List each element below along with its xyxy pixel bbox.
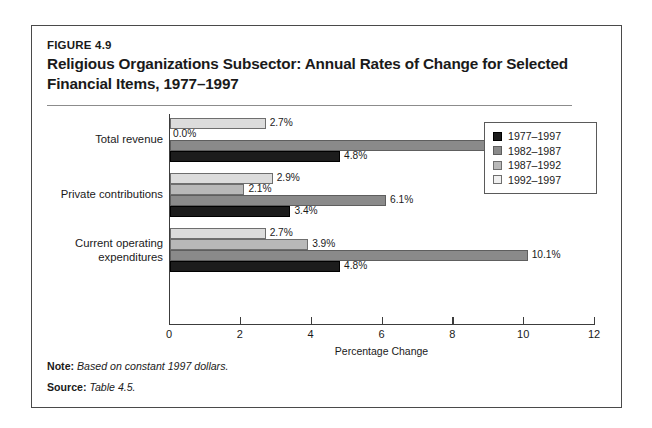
figure-container: FIGURE 4.9 Religious Organizations Subse…: [31, 25, 622, 408]
x-tick-mark: [240, 317, 241, 325]
header-divider: [47, 105, 572, 106]
legend-item[interactable]: 1987–1992: [493, 159, 590, 172]
category-label: Total revenue: [0, 133, 163, 147]
bar-row: 4.8%: [170, 261, 600, 272]
legend-item[interactable]: 1982–1987: [493, 144, 590, 157]
source-line: Source: Table 4.5.: [47, 380, 587, 394]
bar[interactable]: [170, 228, 266, 239]
bar-value-label: 3.9%: [312, 238, 335, 250]
bar[interactable]: [170, 239, 308, 250]
bar-row: 6.1%: [170, 195, 600, 206]
bar[interactable]: [170, 195, 386, 206]
legend-swatch-icon: [493, 161, 502, 170]
bar-group: Current operating expenditures2.7%3.9%10…: [32, 228, 623, 272]
x-tick-mark: [452, 317, 453, 325]
bar-value-label: 0.0%: [173, 128, 196, 140]
bar-value-label: 2.1%: [248, 183, 271, 195]
x-tick-mark: [594, 317, 595, 325]
figure-title: Religious Organizations Subsector: Annua…: [47, 54, 592, 93]
x-tick-label: 10: [508, 328, 538, 340]
figure-number: FIGURE 4.9: [47, 38, 592, 52]
legend-swatch-icon: [493, 175, 502, 184]
x-tick-mark: [382, 317, 383, 325]
legend-label: 1992–1997: [508, 174, 561, 186]
bar-value-label: 2.7%: [270, 117, 293, 129]
x-tick-label: 6: [367, 328, 397, 340]
chart-legend: 1977–19971982–19871987–19921992–1997: [484, 122, 597, 194]
x-tick-label: 8: [437, 328, 467, 340]
bar[interactable]: [170, 261, 340, 272]
legend-item[interactable]: 1977–1997: [493, 130, 590, 143]
legend-swatch-icon: [493, 132, 502, 141]
legend-item[interactable]: 1992–1997: [493, 173, 590, 186]
x-tick-label: 12: [579, 328, 609, 340]
legend-label: 1982–1987: [508, 145, 561, 157]
bar-value-label: 4.8%: [344, 150, 367, 162]
x-tick-mark: [523, 317, 524, 325]
bar-value-label: 3.4%: [294, 205, 317, 217]
bar-value-label: 2.9%: [277, 172, 300, 184]
bar-row: 10.1%: [170, 250, 600, 261]
x-tick-label: 2: [225, 328, 255, 340]
bar-row: 2.7%: [170, 228, 600, 239]
bar-value-label: 10.1%: [532, 249, 561, 261]
figure-header: FIGURE 4.9 Religious Organizations Subse…: [47, 38, 592, 93]
bar[interactable]: [170, 206, 290, 217]
bar-row: 3.4%: [170, 206, 600, 217]
note-line: Note: Based on constant 1997 dollars.: [47, 359, 587, 373]
bar-value-label: 4.8%: [344, 260, 367, 272]
category-label: Current operating expenditures: [43, 237, 163, 264]
x-axis-title: Percentage Change: [169, 345, 594, 357]
category-label: Private contributions: [0, 188, 163, 202]
x-tick-label: 0: [154, 328, 184, 340]
source-text: Table 4.5.: [89, 381, 135, 393]
bar-value-label: 6.1%: [390, 194, 413, 206]
x-tick-mark: [169, 317, 170, 325]
bar-value-label: 2.7%: [270, 227, 293, 239]
source-label: Source:: [47, 381, 86, 393]
note-text: Based on constant 1997 dollars.: [77, 360, 228, 372]
legend-label: 1977–1997: [508, 130, 561, 142]
legend-swatch-icon: [493, 146, 502, 155]
note-label: Note:: [47, 360, 74, 372]
x-tick-mark: [311, 317, 312, 325]
legend-label: 1987–1992: [508, 159, 561, 171]
bar[interactable]: [170, 151, 340, 162]
x-tick-label: 4: [296, 328, 326, 340]
bar[interactable]: [170, 184, 244, 195]
figure-footer: Note: Based on constant 1997 dollars. So…: [47, 359, 587, 401]
